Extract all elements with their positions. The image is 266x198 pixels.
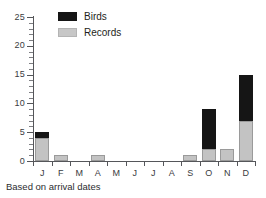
x-tick <box>126 161 127 166</box>
x-tick <box>107 161 108 166</box>
x-tick <box>52 161 53 166</box>
x-tick <box>237 161 238 166</box>
x-tick <box>255 161 256 166</box>
x-tick <box>163 161 164 166</box>
bar-november <box>220 149 234 161</box>
x-axis-tick-label: F <box>52 168 70 178</box>
bar-segment-birds <box>239 75 253 121</box>
bar-segment-records <box>202 149 216 161</box>
bar-segment-records <box>239 121 253 161</box>
chart-caption: Based on arrival dates <box>6 181 101 192</box>
y-axis-tick-label: 15 <box>1 70 25 79</box>
bar-segment-records <box>91 155 105 161</box>
x-axis-tick-label: M <box>70 168 88 178</box>
bar-segment-records <box>183 155 197 161</box>
x-tick <box>70 161 71 166</box>
x-axis-tick-label: J <box>144 168 162 178</box>
bar-october <box>202 109 216 161</box>
x-axis-tick-label: O <box>200 168 218 178</box>
x-axis-tick-label: M <box>107 168 125 178</box>
bar-april <box>91 155 105 161</box>
x-tick <box>200 161 201 166</box>
bar-january <box>35 132 49 161</box>
bar-september <box>183 155 197 161</box>
bar-segment-birds <box>35 132 49 138</box>
bar-segment-records <box>54 155 68 161</box>
x-axis-tick-label: D <box>237 168 255 178</box>
y-axis-tick-label: 10 <box>1 99 25 108</box>
x-tick <box>89 161 90 166</box>
bar-segment-records <box>220 149 234 161</box>
y-axis-tick-label: 25 <box>1 13 25 22</box>
y-axis-tick-label: 20 <box>1 41 25 50</box>
x-tick <box>144 161 145 166</box>
y-axis-tick-label: 0 <box>1 157 25 166</box>
x-axis-tick-label: J <box>33 168 51 178</box>
x-tick <box>218 161 219 166</box>
x-axis-tick-label: J <box>126 168 144 178</box>
plot-area <box>33 17 255 161</box>
bar-segment-records <box>35 138 49 161</box>
x-tick <box>33 161 34 166</box>
x-tick <box>181 161 182 166</box>
x-axis-tick-label: S <box>181 168 199 178</box>
bar-december <box>239 75 253 161</box>
bar-february <box>54 155 68 161</box>
bar-segment-birds <box>202 109 216 149</box>
x-axis-tick-label: A <box>89 168 107 178</box>
x-axis-tick-label: A <box>163 168 181 178</box>
bar-chart: Birds Records 0510152025 JFMAMJJASOND Ba… <box>0 0 266 198</box>
x-axis-tick-label: N <box>218 168 236 178</box>
y-axis-tick-label: 5 <box>1 128 25 137</box>
